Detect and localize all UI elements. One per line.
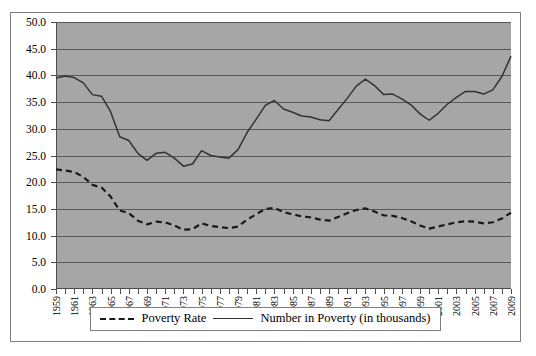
x-axis-tick xyxy=(156,289,157,294)
x-axis-tick xyxy=(193,289,194,294)
y-axis-label: 10.0 xyxy=(4,230,46,242)
x-axis-tick xyxy=(238,289,239,294)
x-axis-tick xyxy=(138,289,139,294)
legend-label-poverty-rate: Poverty Rate xyxy=(141,311,206,326)
x-axis-tick xyxy=(393,289,394,294)
y-axis-label: 20.0 xyxy=(4,176,46,188)
x-axis-label: 2003 xyxy=(451,296,462,316)
plot-region: 0.05.010.015.020.025.030.035.040.045.050… xyxy=(56,22,511,289)
x-axis-tick xyxy=(274,289,275,294)
x-axis-tick xyxy=(375,289,376,294)
chart-frame: 0.05.010.015.020.025.030.035.040.045.050… xyxy=(10,12,521,342)
x-axis-label: 2005 xyxy=(470,296,481,316)
y-axis-label: 40.0 xyxy=(4,69,46,81)
x-axis-tick xyxy=(447,289,448,294)
x-axis-tick xyxy=(311,289,312,294)
series-line xyxy=(56,56,511,166)
x-axis-tick xyxy=(420,289,421,294)
x-axis-tick xyxy=(83,289,84,294)
series-line xyxy=(56,169,511,229)
x-axis-tick xyxy=(347,289,348,294)
x-axis-tick xyxy=(111,289,112,294)
x-axis-tick xyxy=(338,289,339,294)
x-axis-tick xyxy=(329,289,330,294)
x-axis-tick xyxy=(265,289,266,294)
x-axis-tick xyxy=(120,289,121,294)
y-axis-label: 0.0 xyxy=(4,283,46,295)
x-axis-tick xyxy=(220,289,221,294)
x-axis-tick xyxy=(456,289,457,294)
x-axis-tick xyxy=(247,289,248,294)
x-axis-label: 2009 xyxy=(506,296,517,316)
x-axis-tick xyxy=(320,289,321,294)
x-axis-tick xyxy=(183,289,184,294)
x-axis-tick xyxy=(202,289,203,294)
x-axis-tick xyxy=(147,289,148,294)
series-lines xyxy=(56,22,511,289)
chart-legend: Poverty Rate Number in Poverty (in thous… xyxy=(90,307,440,331)
x-axis-tick xyxy=(165,289,166,294)
legend-swatch-number-in-poverty xyxy=(213,318,253,319)
x-axis-tick xyxy=(74,289,75,294)
y-axis-label: 30.0 xyxy=(4,123,46,135)
x-axis-tick xyxy=(211,289,212,294)
x-axis-tick xyxy=(384,289,385,294)
x-axis-tick xyxy=(429,289,430,294)
x-axis-tick xyxy=(256,289,257,294)
y-axis-label: 35.0 xyxy=(4,96,46,108)
x-axis-tick xyxy=(466,289,467,294)
x-axis-tick xyxy=(229,289,230,294)
x-axis-label: 1959 xyxy=(51,296,62,316)
x-axis-tick xyxy=(511,289,512,294)
x-axis-tick xyxy=(502,289,503,294)
x-axis-tick xyxy=(284,289,285,294)
x-axis-tick xyxy=(411,289,412,294)
x-axis-tick xyxy=(293,289,294,294)
y-axis-label: 45.0 xyxy=(4,43,46,55)
legend-label-number-in-poverty: Number in Poverty (in thousands) xyxy=(260,311,430,326)
y-axis-label: 25.0 xyxy=(4,150,46,162)
x-axis-tick xyxy=(475,289,476,294)
y-axis-label: 5.0 xyxy=(4,256,46,268)
x-axis-tick xyxy=(438,289,439,294)
x-axis-tick xyxy=(365,289,366,294)
x-axis-tick xyxy=(174,289,175,294)
x-axis-tick xyxy=(356,289,357,294)
legend-swatch-poverty-rate xyxy=(100,318,134,320)
x-axis-tick xyxy=(484,289,485,294)
y-axis-label: 15.0 xyxy=(4,203,46,215)
x-axis-label: 1961 xyxy=(69,296,80,316)
x-axis-tick xyxy=(56,289,57,294)
x-axis-tick xyxy=(92,289,93,294)
x-axis-tick xyxy=(102,289,103,294)
y-axis-label: 50.0 xyxy=(4,16,46,28)
x-axis-tick xyxy=(65,289,66,294)
x-axis-tick xyxy=(493,289,494,294)
x-axis-label: 2007 xyxy=(488,296,499,316)
x-axis-tick xyxy=(402,289,403,294)
x-axis-tick xyxy=(129,289,130,294)
x-axis-tick xyxy=(302,289,303,294)
